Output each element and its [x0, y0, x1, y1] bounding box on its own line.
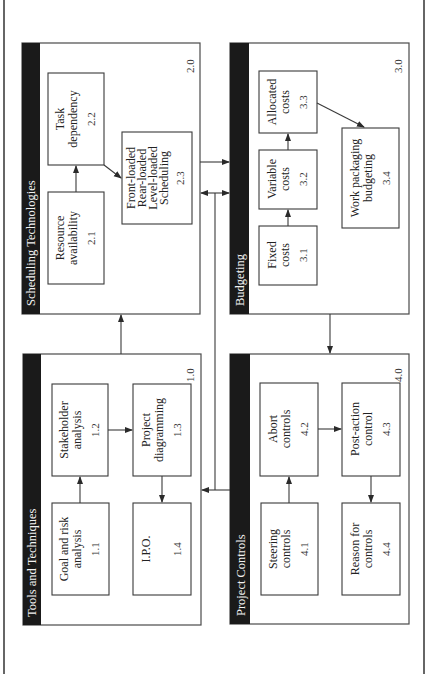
group-title: Project Controls [234, 534, 248, 616]
group-budgeting: Budgeting 3.0 Allocated costs 3.3 Variab… [230, 43, 409, 314]
node-3-2[interactable]: Variable costs 3.2 [259, 150, 317, 209]
group-id: 4.0 [392, 368, 404, 382]
node-1-4[interactable]: I.P.O. 1.4 [133, 503, 191, 595]
diagram-canvas: Scheduling Technologies 2.0 Task depende… [0, 0, 432, 674]
node-4-1[interactable]: Steering controls 4.1 [261, 503, 318, 595]
node-label: Post-action [348, 402, 362, 456]
group-tools-and-techniques: Tools and Techniques 1.0 Stakeholder ana… [23, 354, 201, 625]
node-id: 3.2 [297, 172, 309, 186]
node-label: Project [139, 412, 153, 447]
node-label: Resource [53, 216, 67, 261]
node-4-2[interactable]: Abort controls 4.2 [260, 383, 318, 476]
node-label: costs [278, 167, 292, 191]
node-3-3[interactable]: Allocated costs 3.3 [259, 71, 317, 133]
node-id: 2.1 [85, 231, 97, 245]
node-id: 1.2 [89, 423, 101, 437]
group-project-controls: Project Controls 4.0 Abort controls 4.2 … [230, 354, 409, 624]
node-1-2[interactable]: Stakeholder analysis 1.2 [52, 384, 108, 476]
node-label: analysis [70, 529, 84, 568]
node-label: controls [279, 529, 293, 568]
node-label: diagramming [152, 398, 166, 462]
node-id: 3.4 [380, 171, 392, 185]
node-id: 3.3 [297, 95, 309, 109]
node-label: analysis [70, 410, 84, 449]
node-label: Variable [265, 159, 279, 199]
node-id: 4.1 [298, 542, 310, 556]
node-label: Goal and risk [57, 517, 71, 582]
node-label: I.P.O. [139, 535, 153, 562]
node-label: dependency [66, 90, 80, 147]
node-4-4[interactable]: Reason for controls 4.4 [342, 503, 400, 595]
node-id: 1.4 [171, 542, 183, 556]
node-label: costs [278, 243, 292, 267]
node-id: 1.3 [171, 423, 183, 437]
node-label: controls [361, 529, 375, 568]
node-label: control [361, 411, 375, 446]
group-title: Scheduling Technologies [24, 180, 38, 306]
node-label: availability [66, 211, 80, 265]
node-label: Steering [266, 529, 280, 569]
group-id: 1.0 [184, 368, 196, 382]
node-label: Abort [266, 414, 280, 443]
node-label: costs [278, 90, 292, 114]
node-label: controls [279, 409, 293, 448]
node-label: Fixed [265, 241, 279, 268]
node-label: Stakeholder [57, 401, 71, 458]
group-scheduling-technologies: Scheduling Technologies 2.0 Task depende… [22, 43, 200, 314]
node-3-4[interactable]: Work packaging budgeting 3.4 [342, 128, 399, 228]
node-3-1[interactable]: Fixed costs 3.1 [259, 226, 317, 285]
group-id: 3.0 [392, 59, 404, 73]
node-1-3[interactable]: Project diagramming 1.3 [133, 384, 191, 476]
node-label: Work packaging [348, 139, 362, 218]
node-label: Task [53, 108, 67, 131]
node-4-3[interactable]: Post-action control 4.3 [342, 383, 400, 476]
node-id: 4.2 [298, 422, 310, 436]
node-id: 4.4 [380, 542, 392, 556]
group-title: Tools and Techniques [25, 508, 39, 617]
group-id: 2.0 [184, 59, 196, 73]
node-label: budgeting [361, 154, 375, 202]
node-2-2[interactable]: Task dependency 2.2 [48, 73, 104, 165]
node-id: 2.2 [85, 112, 97, 126]
node-id: 3.1 [297, 248, 309, 262]
node-id: 4.3 [380, 422, 392, 436]
node-2-3[interactable]: Front-loaded Rear-loaded Level-loaded Sc… [122, 132, 192, 224]
node-label: Scheduling [157, 151, 171, 205]
node-1-1[interactable]: Goal and risk analysis 1.1 [52, 503, 109, 595]
node-id: 2.3 [174, 171, 186, 185]
node-2-1[interactable]: Resource availability 2.1 [48, 192, 104, 284]
node-id: 1.1 [89, 542, 101, 556]
node-label: Allocated [265, 79, 279, 126]
group-title: Budgeting [233, 253, 247, 306]
node-label: Reason for [348, 523, 362, 575]
